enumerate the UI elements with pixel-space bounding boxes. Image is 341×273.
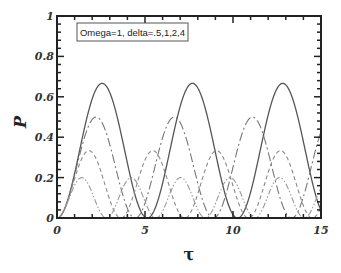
series-line-delta-2 <box>57 151 321 218</box>
y-tick-label: 0 <box>46 212 54 225</box>
x-tick-labels: 051015 <box>53 224 328 237</box>
series-lines <box>57 83 321 218</box>
y-tick-label: 0.8 <box>35 50 54 63</box>
x-tick-label: 10 <box>225 224 241 237</box>
series-line-delta-4 <box>57 178 321 218</box>
legend-box: Omega=1, delta=.5,1,2,4 <box>77 23 188 41</box>
x-tick-label: 0 <box>53 224 61 237</box>
y-axis-label: P <box>11 115 30 129</box>
series-line-delta-5 <box>57 83 321 218</box>
y-tick-label: 0.6 <box>35 91 54 104</box>
x-axis-label: τ <box>184 245 195 264</box>
x-tick-label: 15 <box>313 224 328 237</box>
rabi-oscillation-chart: 051015 00.20.40.60.81 Omega=1, delta=.5,… <box>0 0 341 273</box>
y-tick-label: 0.2 <box>35 172 54 185</box>
x-tick-label: 5 <box>141 224 149 237</box>
y-tick-label: 0.4 <box>35 131 54 144</box>
y-tick-label: 1 <box>46 10 54 23</box>
y-tick-labels: 00.20.40.60.81 <box>35 10 54 225</box>
legend-text: Omega=1, delta=.5,1,2,4 <box>80 27 185 38</box>
